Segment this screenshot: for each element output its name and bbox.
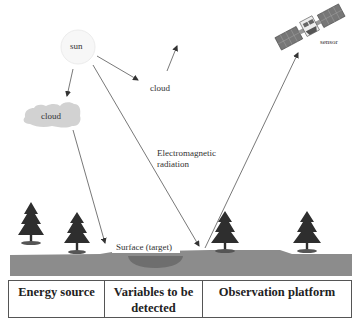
cloud-right-label: cloud [150, 83, 170, 93]
tree-icon [64, 212, 90, 254]
arrow-surface-to-sensor [205, 53, 298, 248]
cloud-left-label: cloud [41, 111, 61, 121]
sensor-label: sensor [320, 38, 338, 46]
table-cell-observation-platform: Observation platform [203, 281, 351, 317]
tree-icon [211, 211, 239, 253]
arrow-sun-to-cloud-right [97, 56, 138, 80]
sun-label: sun [70, 41, 83, 51]
tree-icon [18, 202, 44, 245]
surface-label: Surface (target) [116, 242, 172, 252]
table-cell-variables-line1: Variables to be [105, 284, 202, 300]
table-cell-variables: Variables to be detected [105, 281, 203, 317]
stage-table: Energy source Variables to be detected O… [8, 280, 352, 318]
tree-icon [293, 211, 321, 253]
ground [10, 250, 352, 276]
arrow-sun-to-cloud-left [67, 69, 73, 96]
radiation-label-line1: Electromagnetic [157, 148, 216, 158]
arrow-cloud-right-up [167, 46, 177, 71]
radiation-label-line2: radiation [157, 159, 189, 169]
table-cell-energy-source: Energy source [9, 281, 105, 317]
table-cell-variables-line2: detected [105, 300, 202, 316]
